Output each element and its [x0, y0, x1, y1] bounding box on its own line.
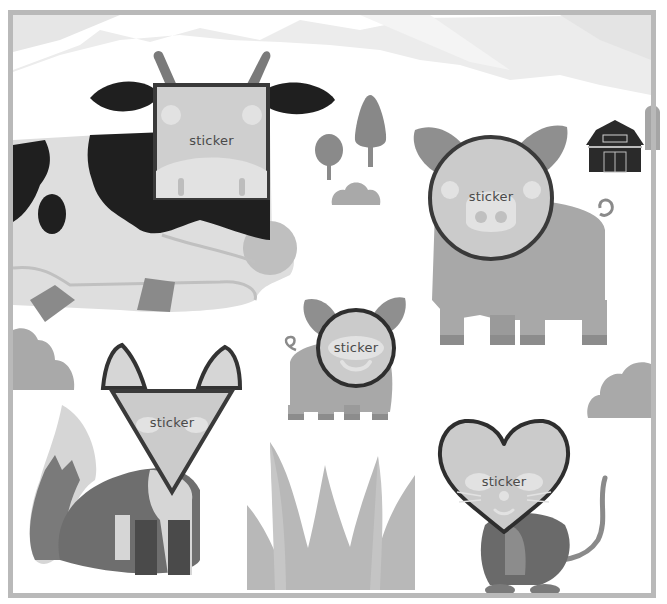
triangle-shape-icon	[110, 389, 234, 494]
square-shape-icon	[153, 83, 270, 200]
square-sticker[interactable]: sticker	[153, 83, 270, 200]
circle-shape-icon	[316, 308, 396, 388]
heart-shape-icon	[437, 418, 571, 534]
circle-shape-icon	[428, 135, 554, 261]
triangle-sticker[interactable]: sticker	[110, 389, 234, 494]
circle-small-sticker[interactable]: sticker	[316, 308, 396, 388]
circle-large-sticker[interactable]: sticker	[428, 135, 554, 261]
heart-sticker[interactable]: sticker	[437, 418, 571, 534]
